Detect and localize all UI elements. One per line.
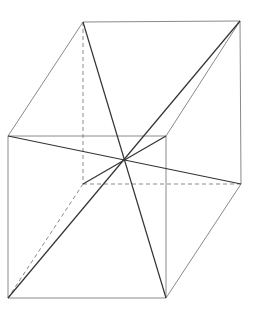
- space-diagonals: [8, 21, 241, 298]
- hidden-edge-bottom-left: [8, 184, 83, 298]
- edge-top-back: [83, 21, 240, 22]
- edge-top-left: [8, 22, 83, 136]
- edge-top-right: [166, 21, 240, 136]
- edge-bottom-right: [166, 184, 241, 298]
- edge-back-right: [240, 21, 241, 184]
- diagram-canvas: [0, 0, 258, 309]
- diagonal-ftr-bbl: [83, 136, 166, 184]
- cube-diagram: [0, 0, 258, 309]
